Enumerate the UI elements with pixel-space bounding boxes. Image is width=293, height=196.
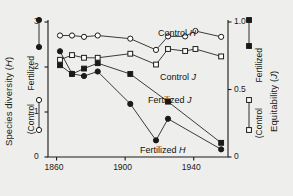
data-point-marker (193, 47, 198, 52)
data-point-marker (69, 33, 74, 38)
legend-marker (247, 18, 252, 23)
series-label-symbol: J (192, 72, 197, 82)
series-label-symbol: J (187, 95, 192, 105)
tick-label: 1940 (182, 162, 201, 172)
data-point-marker (219, 34, 224, 39)
left-axis-title-main: Species diversity ( (3, 67, 14, 146)
legend-marker (36, 97, 41, 102)
series-group (57, 28, 223, 152)
data-point-marker (81, 34, 86, 39)
series-label-text: Control (158, 28, 190, 38)
series-label-control-j: Control J (160, 72, 196, 82)
data-point-marker (219, 147, 224, 152)
series-label-text: Fertilized (148, 95, 187, 105)
tick-label: 1900 (113, 162, 132, 172)
legend-marker (36, 127, 41, 132)
data-point-marker (183, 49, 188, 54)
tick-label: 1 (34, 106, 39, 116)
data-point-marker (128, 36, 133, 41)
data-point-marker (166, 47, 171, 52)
data-point-marker (219, 140, 224, 145)
data-point-marker (128, 51, 133, 56)
data-point-marker (70, 72, 75, 77)
tick-label: 3 (34, 16, 39, 26)
tick-label: 0.5 (234, 84, 246, 94)
series-label-symbol: H (179, 145, 186, 155)
right-axis-title-symbol: J (268, 74, 279, 79)
legend-right-fertilized-label: Fertilized (254, 48, 264, 82)
right-axis-title-close: ) (268, 70, 279, 73)
tick-label: 0 (34, 151, 39, 161)
left-axis-title-symbol: H (3, 60, 14, 67)
figure-container: Species diversity (H) Equitability (J) F… (0, 0, 293, 196)
data-point-marker (219, 54, 224, 59)
left-axis-title-close: ) (3, 56, 14, 59)
data-point-marker (95, 55, 100, 60)
left-axis-title: Species diversity (H) (3, 26, 14, 176)
data-point-marker (95, 61, 100, 66)
tick-label: 2 (34, 61, 39, 71)
data-point-marker (128, 101, 133, 106)
right-axis-title: Equitability (J) (268, 26, 279, 176)
series-label-text: Control (160, 72, 192, 82)
series-label-fertilized-h: Fertilized H (140, 145, 186, 155)
data-point-marker (82, 66, 87, 71)
tick-label: 1.0 (234, 16, 246, 26)
tick-label: 0 (234, 151, 239, 161)
legend-marker (247, 98, 252, 103)
data-point-marker (153, 138, 158, 143)
data-point-marker (57, 49, 62, 54)
series-label-symbol: H (190, 28, 197, 38)
data-point-marker (70, 53, 75, 58)
data-point-marker (58, 63, 63, 68)
series-label-control-h: Control H (158, 28, 196, 38)
legend-marker (36, 44, 41, 49)
legend-right-control-label: (Control (254, 108, 264, 138)
data-point-marker (128, 72, 133, 77)
tick-label: 1860 (45, 162, 64, 172)
data-point-marker (81, 73, 86, 78)
data-point-marker (57, 33, 62, 38)
data-point-marker (153, 47, 158, 52)
data-point-marker (154, 62, 159, 67)
series-label-text: Fertilized (140, 145, 179, 155)
legend-marker (247, 128, 252, 133)
data-point-marker (165, 116, 170, 121)
right-axis-title-main: Equitability ( (268, 78, 279, 131)
data-point-marker (58, 57, 63, 62)
series-label-fertilized-j: Fertilized J (148, 95, 192, 105)
axis-frame (48, 20, 228, 157)
legend-marker (247, 44, 252, 49)
data-point-marker (95, 33, 100, 38)
data-point-marker (95, 69, 100, 74)
data-point-marker (82, 55, 87, 60)
